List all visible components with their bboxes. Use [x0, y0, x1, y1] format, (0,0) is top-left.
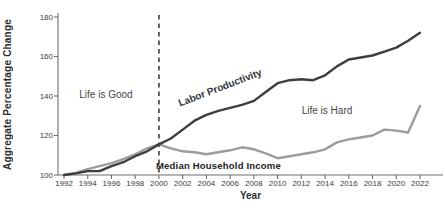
x-tick-label: 2010 — [266, 179, 290, 188]
annotation-life-is-hard: Life is Hard — [272, 105, 382, 116]
series-label-median-household-income: Median Household Income — [156, 160, 281, 171]
x-axis-title: Year — [58, 190, 443, 201]
y-tick-label: 120 — [28, 131, 53, 140]
y-tick-label: 140 — [28, 92, 53, 101]
x-tick-label: 1992 — [52, 179, 76, 188]
x-tick-label: 1996 — [99, 179, 123, 188]
x-tick-label: 2018 — [361, 179, 385, 188]
x-tick-label: 2006 — [218, 179, 242, 188]
x-axis-tick-labels: 1992199419961998200020022004200620082010… — [0, 179, 445, 191]
y-tick-label: 180 — [28, 13, 53, 22]
annotation-life-is-good: Life is Good — [51, 89, 161, 100]
productivity-vs-income-chart: Aggregate Percentage Change Year 1001201… — [0, 0, 445, 210]
y-axis-title: Aggregate Percentage Change — [2, 14, 13, 176]
y-tick-label: 160 — [28, 52, 53, 61]
x-tick-label: 2022 — [408, 179, 432, 188]
x-tick-label: 2012 — [289, 179, 313, 188]
x-tick-label: 2002 — [171, 179, 195, 188]
x-tick-label: 2016 — [337, 179, 361, 188]
x-tick-label: 2004 — [194, 179, 218, 188]
x-tick-label: 2014 — [313, 179, 337, 188]
x-tick-label: 1994 — [76, 179, 100, 188]
x-tick-label: 2020 — [384, 179, 408, 188]
x-tick-label: 1998 — [123, 179, 147, 188]
x-tick-label: 2008 — [242, 179, 266, 188]
x-tick-label: 2000 — [147, 179, 171, 188]
